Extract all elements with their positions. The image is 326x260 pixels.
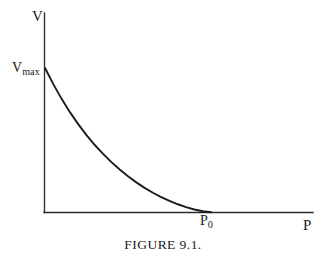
y-axis-label: V xyxy=(32,9,43,24)
vmax-base: V xyxy=(12,60,22,75)
p0-tick-label: P0 xyxy=(200,214,213,230)
figure-caption: FIGURE 9.1. xyxy=(0,237,326,253)
vmax-tick-label: Vmax xyxy=(12,61,40,77)
x-axis-label: P xyxy=(303,218,311,233)
figure-panel: V P Vmax P0 FIGURE 9.1. xyxy=(0,0,326,260)
p0-subscript: 0 xyxy=(208,219,213,230)
vmax-subscript: max xyxy=(22,66,40,77)
plot-canvas xyxy=(0,0,326,260)
p0-base: P xyxy=(200,213,208,228)
velocity-pressure-curve xyxy=(45,68,211,212)
